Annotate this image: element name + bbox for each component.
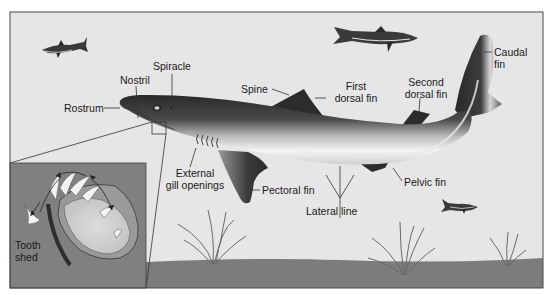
label-first-dorsal-fin: First dorsal fin (326, 80, 386, 104)
label-second-dorsal-fin: Second dorsal fin (396, 76, 456, 100)
spiracle-dot (170, 107, 172, 109)
diagram-canvas (0, 0, 554, 295)
label-nostril: Nostril (120, 74, 150, 86)
seabed (146, 258, 543, 288)
label-lateral-line: Lateral line (306, 205, 357, 217)
label-external-gill-openings: External gill openings (160, 167, 230, 191)
label-rostrum: Rostrum (64, 102, 104, 114)
tooth-inset (10, 163, 146, 288)
label-spiracle: Spiracle (153, 60, 191, 72)
label-pelvic-fin: Pelvic fin (404, 176, 446, 188)
label-pectoral-fin: Pectoral fin (262, 184, 315, 196)
label-spine: Spine (241, 83, 268, 95)
label-tooth-shed: Tooth shed (15, 239, 41, 263)
label-caudal-fin: Caudal fin (494, 46, 527, 70)
shark-anatomy-diagram: Rostrum Nostril Spiracle Spine First dor… (0, 0, 554, 295)
